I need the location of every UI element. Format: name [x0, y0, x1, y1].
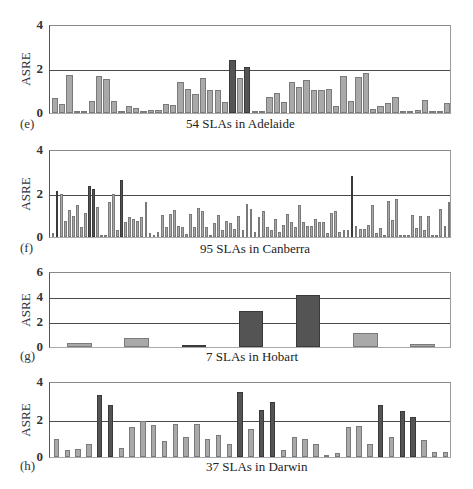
bar — [163, 104, 169, 113]
bar-highlighted — [88, 186, 91, 237]
bar — [422, 100, 428, 113]
bar — [292, 437, 297, 457]
bar — [207, 90, 213, 113]
bar — [318, 222, 321, 237]
bar — [76, 205, 79, 237]
bar — [407, 111, 413, 113]
plot-area — [49, 150, 451, 238]
bar — [429, 111, 435, 113]
bar — [242, 230, 245, 237]
bar — [222, 102, 228, 113]
bar-highlighted — [270, 402, 275, 457]
y-tick: 4 — [29, 375, 43, 388]
bar — [363, 229, 366, 237]
bar — [129, 427, 134, 457]
bar — [149, 233, 152, 237]
panel-caption: 37 SLAs in Darwin — [206, 459, 307, 475]
bar — [439, 209, 442, 237]
bar — [355, 226, 358, 237]
bar — [254, 232, 257, 237]
bar — [431, 235, 434, 237]
bar-highlighted — [97, 395, 102, 457]
plot-area — [49, 272, 451, 348]
bar — [140, 217, 143, 237]
bar — [281, 450, 286, 458]
bar — [347, 230, 350, 237]
bar — [181, 227, 184, 237]
bar — [419, 216, 422, 237]
bar — [379, 228, 382, 237]
bar — [356, 426, 361, 457]
bar — [281, 102, 287, 113]
bar — [444, 226, 447, 237]
bar — [448, 202, 451, 237]
bar — [59, 104, 65, 113]
bar — [367, 444, 372, 457]
bar — [326, 89, 332, 113]
bar — [221, 230, 224, 237]
bar — [338, 232, 341, 237]
bar — [197, 208, 200, 237]
bar — [67, 343, 92, 347]
bar — [209, 235, 212, 237]
bar-highlighted — [56, 191, 59, 237]
bar — [233, 229, 236, 237]
bar — [52, 98, 58, 113]
bar — [427, 216, 430, 237]
y-tick: 6 — [29, 265, 43, 278]
bar — [200, 78, 206, 113]
bar — [392, 97, 398, 114]
bar — [387, 201, 390, 237]
bar — [89, 101, 95, 113]
bar — [103, 79, 109, 113]
bar — [415, 110, 421, 113]
y-tick: 4 — [29, 143, 43, 156]
panel-label: (g) — [20, 348, 35, 364]
bar — [266, 227, 269, 237]
bar — [124, 222, 127, 237]
bar — [296, 87, 302, 113]
bar — [205, 439, 210, 457]
bar — [193, 227, 196, 237]
bar — [375, 233, 378, 237]
bar — [153, 235, 156, 237]
bar — [311, 90, 317, 113]
bar — [278, 232, 281, 237]
bar — [133, 108, 139, 114]
bar — [286, 214, 289, 237]
bar — [282, 225, 285, 237]
bar — [112, 194, 115, 238]
bar — [72, 216, 75, 237]
bar — [443, 452, 448, 457]
bar — [333, 106, 339, 113]
bar — [310, 226, 313, 237]
bar — [262, 211, 265, 237]
bar-highlighted — [378, 405, 383, 458]
bar — [324, 455, 329, 457]
bar — [162, 441, 167, 457]
bar — [423, 230, 426, 237]
bar — [227, 444, 232, 457]
bar — [66, 75, 72, 114]
bar — [306, 226, 309, 237]
bar — [343, 230, 346, 237]
bar — [213, 223, 216, 237]
plot-area — [49, 382, 451, 458]
bar — [119, 448, 124, 457]
bar — [302, 439, 307, 457]
gridline — [50, 195, 450, 196]
bar — [161, 215, 164, 237]
bar-highlighted — [410, 417, 415, 457]
bar — [185, 234, 188, 237]
bar-highlighted — [244, 67, 250, 113]
bar — [173, 210, 176, 237]
bar-highlighted — [259, 410, 264, 457]
bar — [205, 227, 208, 237]
bar — [353, 333, 378, 347]
bar — [391, 220, 394, 237]
y-tick: 2 — [29, 187, 43, 200]
bar — [229, 223, 232, 237]
bar — [421, 440, 426, 457]
bar — [54, 439, 59, 457]
bar — [385, 103, 391, 113]
